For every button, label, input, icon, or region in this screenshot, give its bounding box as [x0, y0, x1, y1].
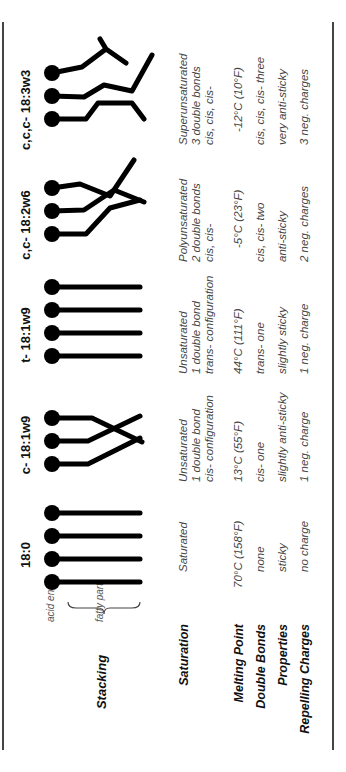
cell-properties-t-18-1w9: slightly sticky [276, 307, 289, 374]
cell-saturation-c-18-1w9-line3: cis- configuration [203, 395, 216, 482]
cell-saturation-18-0: Saturated [177, 522, 190, 572]
cell-saturation-ccc-18-3w3-line1: Superunsaturated [177, 54, 190, 145]
cell-double-bonds-ccc-18-3w3: cis, cis, cis- three [254, 57, 267, 145]
molecule-triple-cis-kink [44, 55, 152, 104]
molecule-straight [44, 279, 140, 295]
column-header-t-18-1w9: t- 18:1w9 [18, 280, 33, 390]
column-header-ccc-18-3w3: c,c,c- 18:3w3 [18, 55, 33, 165]
cell-saturation-t-18-1w9-line1: Unsaturated [177, 311, 190, 374]
column-header-cc-18-2w6: c,c- 18:2w6 [18, 170, 33, 280]
table-bottom-border [332, 22, 334, 750]
fatty-part-brace-icon [64, 600, 144, 620]
row-label-saturation: Saturation [177, 624, 191, 748]
cell-double-bonds-c-18-1w9: cis- one [254, 442, 267, 482]
cell-repelling-charges-ccc-18-3w3: 3 neg. charges [298, 69, 311, 145]
cell-properties-c-18-1w9: slightly anti-sticky [276, 393, 289, 482]
molecule-straight [44, 325, 140, 341]
molecule-straight [44, 505, 140, 521]
cell-repelling-charges-18-0: no charge [298, 521, 311, 572]
cell-double-bonds-t-18-1w9: trans- one [254, 322, 267, 374]
cell-repelling-charges-c-18-1w9: 1 neg. charge [298, 412, 311, 482]
row-label-properties: Properties [276, 624, 290, 748]
molecule-triple-cis-kink [44, 39, 126, 81]
stacking-c-18-1w9 [36, 382, 156, 482]
cell-repelling-charges-t-18-1w9: 1 neg. charge [298, 304, 311, 374]
cell-saturation-cc-18-2w6-line3: cis, cis- [203, 224, 216, 262]
fatty-acid-comparison-table: 18:0 c- 18:1w9 t- 18:1w9 c,c- 18:2w6 c,c… [0, 0, 346, 772]
stacking-t-18-1w9 [36, 264, 156, 374]
stacking-cc-18-2w6 [36, 152, 156, 252]
cell-properties-18-0: sticky [276, 543, 289, 572]
cell-properties-cc-18-2w6: anti-sticky [276, 211, 289, 262]
column-header-18-0: 18:0 [18, 500, 33, 610]
stacking-ccc-18-3w3 [36, 27, 156, 137]
column-header-c-18-1w9: c- 18:1w9 [18, 390, 33, 500]
cell-repelling-charges-cc-18-2w6: 2 neg. charges [298, 186, 311, 262]
molecule-straight [44, 348, 140, 364]
molecule-straight [44, 574, 140, 590]
cell-melting-point-t-18-1w9: 44°C (111°F) [232, 308, 245, 374]
stacking-18-0 [36, 490, 156, 600]
row-label-melting-point: Melting Point [232, 624, 246, 748]
molecule-straight [44, 302, 140, 318]
cell-saturation-c-18-1w9-line2: 1 double bond [190, 409, 203, 482]
cell-melting-point-c-18-1w9: 13°C (55°F) [232, 421, 245, 482]
cell-saturation-cc-18-2w6-line2: 2 double bonds [190, 183, 203, 262]
cell-melting-point-18-0: 70°C (158°F) [232, 521, 245, 588]
molecule-straight [44, 551, 140, 567]
table-top-border [2, 22, 4, 750]
row-label-double-bonds: Double Bonds [254, 624, 268, 748]
row-label-stacking: Stacking [94, 642, 109, 722]
cell-saturation-t-18-1w9-line2: 1 double bond [190, 301, 203, 374]
molecule-straight [44, 528, 140, 544]
cell-saturation-t-18-1w9-line3: trans- configuration [203, 276, 216, 374]
molecule-triple-cis-kink [44, 103, 144, 127]
cell-double-bonds-18-0: none [254, 546, 267, 572]
cell-saturation-cc-18-2w6-line1: Polyunsaturated [177, 179, 190, 262]
cell-properties-ccc-18-3w3: very anti-sticky [276, 69, 289, 145]
cell-melting-point-ccc-18-3w3: -12°C (10°F) [232, 67, 245, 132]
cell-saturation-c-18-1w9-line1: Unsaturated [177, 419, 190, 482]
row-label-repelling-charges: Repelling Charges [298, 624, 312, 748]
cell-saturation-ccc-18-3w3-line2: 3 double bonds [190, 66, 203, 145]
cell-melting-point-cc-18-2w6: -5°C (23°F) [232, 190, 245, 248]
cell-double-bonds-cc-18-2w6: cis, cis- two [254, 203, 267, 262]
cell-saturation-ccc-18-3w3-line3: cis, cis, cis- [203, 86, 216, 145]
